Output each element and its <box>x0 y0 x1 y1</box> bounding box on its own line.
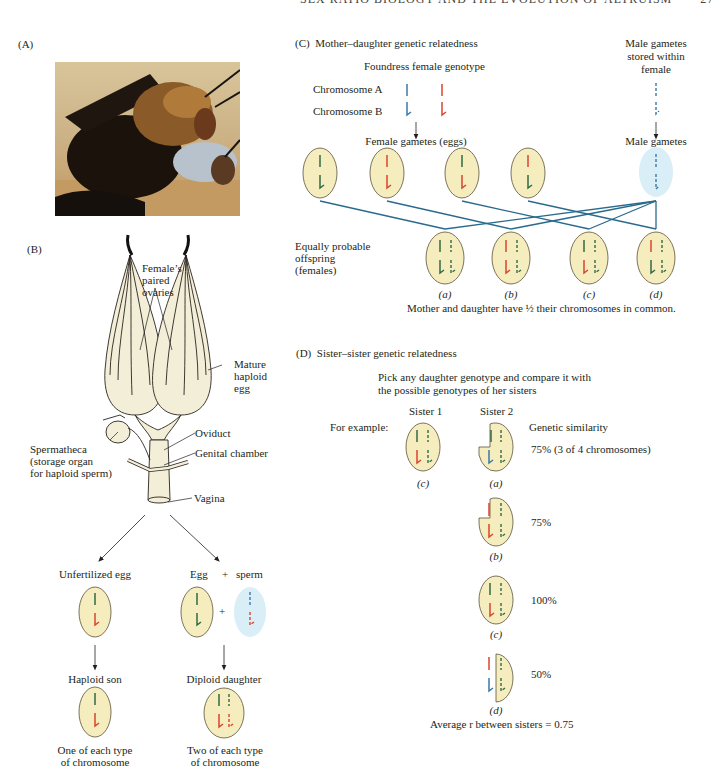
son-caption: One of each type of chromosome <box>40 744 150 768</box>
panel-d-title-text: Sister–sister genetic relatedness <box>317 347 457 359</box>
stored-male-chromosomes <box>656 83 659 114</box>
daughter-caption: Two of each type of chromosome <box>170 744 280 768</box>
offspring-a-id: (a) <box>435 288 455 301</box>
sister1-label: Sister 1 <box>409 405 442 418</box>
female-gamete-1 <box>303 148 337 198</box>
spermatheca-label: Spermatheca (storage organ for haploid s… <box>30 443 112 479</box>
foundress-chromosomes <box>407 84 446 115</box>
comparison-a-id: (a) <box>486 477 506 490</box>
chromosome-a-label: Chromosome A <box>313 83 382 96</box>
unfertilized-egg-cell <box>79 587 111 637</box>
male-gametes-label: Male gametes <box>616 135 696 148</box>
diploid-daughter-cell <box>204 688 244 738</box>
sister2-cell-b <box>479 498 513 546</box>
inheritance-lines <box>320 201 656 229</box>
comparison-c-similarity: 100% <box>531 594 557 607</box>
comparison-a-similarity: 75% (3 of 4 chromosomes) <box>531 443 651 456</box>
for-example-label: For example: <box>330 421 388 434</box>
panel-d-instruction: Pick any daughter genotype and compare i… <box>378 371 591 397</box>
ovaries-label: Female’s paired ovaries <box>142 262 182 298</box>
male-gamete <box>639 147 673 197</box>
female-gametes-label: Female gametes (eggs) <box>360 135 472 148</box>
sister2-cell-c <box>479 576 513 624</box>
comparison-d-similarity: 50% <box>531 668 551 681</box>
offspring-b-id: (b) <box>501 288 521 301</box>
vagina-label: Vagina <box>194 492 225 505</box>
offspring-b <box>492 232 530 284</box>
plus-sign-cells: + <box>219 605 225 618</box>
female-gamete-2 <box>370 148 404 198</box>
sister1-id: (c) <box>413 477 433 490</box>
haploid-son-cell <box>79 687 111 737</box>
unfertilized-egg-label: Unfertilized egg <box>45 568 145 581</box>
sperm-label: sperm <box>236 568 263 581</box>
offspring-a <box>426 232 464 284</box>
mother-daughter-conclusion: Mother and daughter have ½ their chromos… <box>407 302 676 315</box>
offspring-c <box>570 232 608 284</box>
arrow-to-unfertilized <box>100 515 145 560</box>
offspring-d-id: (d) <box>646 288 666 301</box>
female-gamete-3 <box>445 148 479 198</box>
genital-chamber-label: Genital chamber <box>195 447 268 460</box>
egg-cell <box>181 587 213 637</box>
offspring-d <box>637 232 675 284</box>
comparison-c-id: (c) <box>486 628 506 641</box>
sister2-cell-d <box>489 654 513 702</box>
chromosome-b-label: Chromosome B <box>313 105 382 118</box>
sister1-cell-c <box>406 423 440 471</box>
comparison-b-id: (b) <box>486 550 506 563</box>
foundress-genotype-label: Foundress female genotype <box>364 60 485 73</box>
egg-label: Egg <box>190 568 208 581</box>
female-gamete-4 <box>511 148 545 198</box>
oviduct-label: Oviduct <box>195 427 230 440</box>
offspring-label: Equally probable offspring (females) <box>295 240 370 276</box>
arrow-to-fertilized <box>170 515 218 560</box>
panel-b-label: (B) <box>27 243 42 256</box>
comparison-d-id: (d) <box>486 704 506 717</box>
panel-c-title: (C) Mother–daughter genetic relatedness <box>295 37 478 50</box>
comparison-b-similarity: 75% <box>531 516 551 529</box>
panel-d-title: (D) Sister–sister genetic relatedness <box>296 347 457 360</box>
panel-d-label: (D) <box>296 347 311 359</box>
male-stored-label: Male gametes stored within female <box>616 37 696 76</box>
sister2-label: Sister 2 <box>480 405 513 418</box>
panel-c-label: (C) <box>295 37 310 49</box>
offspring-c-id: (c) <box>579 288 599 301</box>
diploid-daughter-label: Diploid daughter <box>174 673 274 686</box>
haploid-son-label: Haploid son <box>45 673 145 686</box>
sister2-cell-a <box>479 423 513 471</box>
average-relatedness: Average r between sisters = 0.75 <box>430 718 573 731</box>
plus-sign-top: + <box>222 568 228 581</box>
sperm-cell <box>234 587 266 637</box>
genetic-similarity-header: Genetic similarity <box>529 421 608 434</box>
panel-c-title-text: Mother–daughter genetic relatedness <box>315 37 478 49</box>
mature-egg-label: Mature haploid egg <box>234 358 267 394</box>
